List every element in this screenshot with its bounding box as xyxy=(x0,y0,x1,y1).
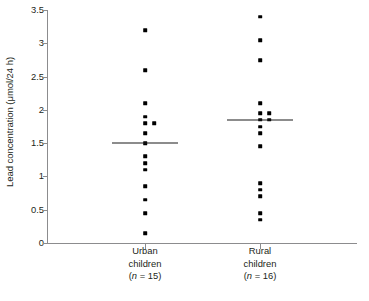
data-point xyxy=(267,111,271,115)
data-point xyxy=(143,101,147,105)
data-point xyxy=(258,125,262,129)
y-axis-title: Lead concentration (μmol/24 h) xyxy=(4,57,15,187)
y-axis-line xyxy=(47,10,48,243)
y-tick-label: 2.5 xyxy=(18,72,44,81)
plot-area xyxy=(47,10,357,243)
data-point xyxy=(143,131,147,135)
data-point xyxy=(143,68,147,72)
data-point xyxy=(258,218,262,222)
y-tick-label: 1 xyxy=(18,171,44,180)
data-point xyxy=(258,15,262,19)
data-point xyxy=(143,28,147,32)
data-point xyxy=(143,198,147,202)
data-point xyxy=(258,195,262,199)
y-tick-label: 0.5 xyxy=(18,205,44,214)
x-category-line1: Rural xyxy=(200,245,320,258)
median-line xyxy=(112,143,178,144)
y-tick-mark xyxy=(43,43,47,44)
x-category-line2: children xyxy=(85,258,205,271)
median-line xyxy=(227,119,293,120)
data-point xyxy=(258,145,262,149)
data-point xyxy=(258,211,262,215)
data-point xyxy=(143,121,147,125)
y-tick-label: 1.5 xyxy=(18,138,44,147)
data-point xyxy=(143,161,147,165)
y-tick-mark xyxy=(43,143,47,144)
data-point xyxy=(152,121,156,125)
y-tick-label: 0 xyxy=(18,238,44,247)
y-tick-mark xyxy=(43,210,47,211)
x-category-label: Urbanchildren(n = 15) xyxy=(85,245,205,283)
y-axis-tick-labels: 00.511.522.533.5 xyxy=(16,0,44,260)
y-tick-mark xyxy=(43,77,47,78)
y-tick-label: 2 xyxy=(18,105,44,114)
x-category-sample-size: (n = 15) xyxy=(85,270,205,283)
data-point xyxy=(258,188,262,192)
y-tick-mark xyxy=(43,110,47,111)
y-tick-mark xyxy=(43,10,47,11)
y-tick-label: 3 xyxy=(18,38,44,47)
data-point xyxy=(258,131,262,135)
data-point xyxy=(258,101,262,105)
data-point xyxy=(258,181,262,185)
data-point xyxy=(143,115,147,119)
data-point xyxy=(258,58,262,62)
data-point xyxy=(143,231,147,235)
x-category-sample-size: (n = 16) xyxy=(200,270,320,283)
data-point xyxy=(143,185,147,189)
data-point xyxy=(143,168,147,172)
data-point xyxy=(258,38,262,42)
x-category-line2: children xyxy=(200,258,320,271)
y-tick-mark xyxy=(43,243,47,244)
x-axis-line xyxy=(47,243,357,244)
x-category-line1: Urban xyxy=(85,245,205,258)
data-point xyxy=(143,211,147,215)
y-tick-label: 3.5 xyxy=(18,5,44,14)
x-category-label: Ruralchildren(n = 16) xyxy=(200,245,320,283)
dot-plot-figure: Lead concentration (μmol/24 h) 00.511.52… xyxy=(0,0,369,301)
y-tick-mark xyxy=(43,176,47,177)
data-point xyxy=(143,155,147,159)
data-point xyxy=(258,111,262,115)
